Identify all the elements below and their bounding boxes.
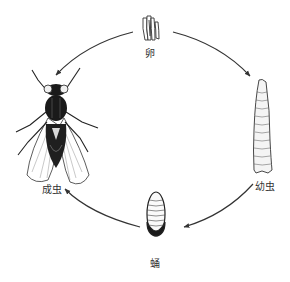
arrow-egg-to-larva [173,32,250,76]
life-cycle-diagram [0,0,290,282]
arrow-adult-to-egg [56,32,133,75]
larva-label: 幼虫 [255,181,275,193]
pupa-illustration [147,192,165,236]
arrow-larva-to-pupa [184,184,253,227]
larva-illustration [254,79,273,173]
egg-illustration [143,16,159,40]
adult-fly-illustration [16,68,98,184]
arrow-pupa-to-adult [65,189,140,227]
adult-label: 成虫 [42,184,62,196]
egg-label: 卵 [145,48,155,60]
pupa-label: 蛹 [150,258,160,270]
